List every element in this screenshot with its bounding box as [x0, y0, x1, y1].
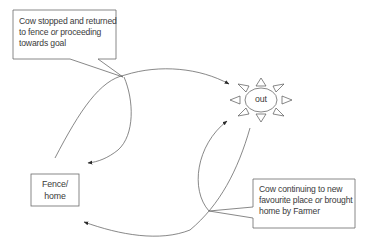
- callout-bottom-line1: Cow continuing to new: [259, 184, 353, 195]
- callout-top-line2-a: to fence: [19, 27, 51, 37]
- callout-bottom-line3: home by Farmer: [259, 206, 353, 217]
- callout-bottom-line2-a: favourite place: [259, 195, 315, 205]
- edge-bottom-to-fence: [84, 128, 250, 236]
- fence-label-line1: Fence/: [31, 178, 79, 190]
- fence-label-line2: home: [31, 190, 79, 202]
- callout-top-line3: towards goal: [19, 38, 117, 49]
- fence-home-label: Fence/ home: [31, 178, 79, 202]
- callout-top-or: or: [51, 27, 58, 37]
- callout-top-line2-b: proceeding: [58, 27, 101, 37]
- edge-bottom-to-out: [198, 121, 227, 211]
- callout-bottom-line2: favourite place or brought: [259, 195, 353, 206]
- out-label: out: [246, 94, 276, 105]
- callout-bottom-line2-b: brought: [322, 195, 352, 205]
- edge-return-to-fence: [88, 77, 131, 163]
- callout-top-text: Cow stopped and returned to fence or pro…: [19, 16, 117, 49]
- callout-bottom-text: Cow continuing to new favourite place or…: [259, 184, 353, 217]
- callout-top-line2: to fence or proceeding: [19, 27, 117, 38]
- edge-fence-to-out: [55, 69, 229, 158]
- callout-top-line1: Cow stopped and returned: [19, 16, 117, 27]
